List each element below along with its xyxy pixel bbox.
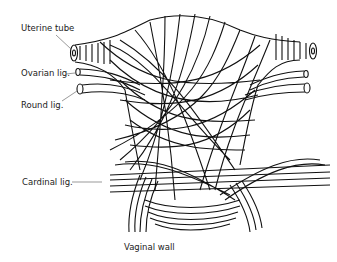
label-vaginal-wall: Vaginal wall [124, 243, 175, 252]
uterus-fibre-illustration [0, 0, 337, 262]
label-uterine-tube: Uterine tube [21, 24, 74, 33]
diagram-canvas: Uterine tube Ovarian lig. Round lig. Car… [0, 0, 337, 262]
label-cardinal-ligament: Cardinal lig. [22, 178, 73, 187]
label-ovarian-ligament: Ovarian lig. [21, 69, 70, 78]
label-round-ligament: Round lig. [21, 101, 63, 110]
